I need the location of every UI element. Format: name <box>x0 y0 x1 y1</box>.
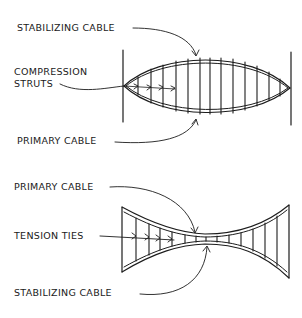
stabilizing-cable-top-inner <box>126 63 288 88</box>
label-compression-line2: STRUTS <box>14 78 53 89</box>
cable-truss-diagram: STABILIZING CABLE COMPRESSION STRUTS PRI… <box>0 0 302 318</box>
label-stabilizing-cable-top: STABILIZING CABLE <box>17 22 115 33</box>
primary-cable-top-inner <box>126 86 288 110</box>
label-stabilizing-cable-bottom: STABILIZING CABLE <box>14 287 112 298</box>
label-primary-cable-bottom: PRIMARY CABLE <box>14 181 94 192</box>
primary-cable-bottom <box>122 205 289 234</box>
leader-compression-struts <box>60 84 124 90</box>
label-tension-ties: TENSION TIES <box>13 230 84 241</box>
bottom-truss: PRIMARY CABLE TENSION TIES STABILIZING C… <box>13 181 289 298</box>
tie-arrowheads <box>132 233 172 242</box>
label-primary-cable-top: PRIMARY CABLE <box>17 135 97 146</box>
leader-stabilizing-cable-top <box>133 28 196 55</box>
top-truss: STABILIZING CABLE COMPRESSION STRUTS PRI… <box>14 22 291 146</box>
label-compression-line1: COMPRESSION <box>14 66 87 77</box>
stabilizing-cable-bottom <box>122 244 289 278</box>
leader-primary-cable-top <box>115 120 196 143</box>
leader-tension-ties <box>100 236 174 240</box>
